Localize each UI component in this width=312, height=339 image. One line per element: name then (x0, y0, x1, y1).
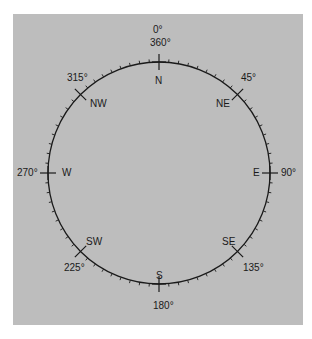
label-southeast: SE (222, 236, 235, 247)
label-360-degrees: 360° (150, 37, 171, 48)
label-270-degrees: 270° (17, 167, 38, 178)
compass-circle (0, 0, 312, 339)
label-northeast: NE (216, 98, 230, 109)
label-south: S (156, 270, 163, 281)
label-135-degrees: 135° (243, 262, 264, 273)
label-northwest: NW (90, 98, 107, 109)
label-90-degrees: 90° (281, 167, 296, 178)
label-180-degrees: 180° (153, 300, 174, 311)
label-north: N (155, 75, 162, 86)
label-45-degrees: 45° (241, 72, 256, 83)
label-225-degrees: 225° (64, 262, 85, 273)
label-315-degrees: 315° (67, 72, 88, 83)
label-east: E (253, 167, 260, 178)
label-0-degrees: 0° (153, 24, 163, 35)
label-southwest: SW (86, 236, 102, 247)
label-west: W (62, 167, 71, 178)
